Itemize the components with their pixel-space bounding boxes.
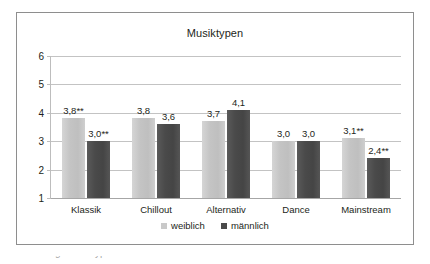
legend-item-label: weiblich	[171, 220, 205, 231]
x-axis-tick-label: Mainstream	[341, 204, 391, 215]
y-tick-mark-1	[47, 198, 51, 199]
bar-value-label: 3,6	[162, 111, 175, 122]
bar-value-label: 3,7	[207, 108, 220, 119]
x-axis-tick-label: Chillout	[140, 204, 172, 215]
bar-group: 3,83,6Chillout	[121, 56, 191, 198]
bar-weiblich-dance[interactable]: 3,0	[272, 141, 295, 198]
bar-group: 3,1**2,4**Mainstream	[331, 56, 401, 198]
cut-off-caption-text: Abbildung: Musiktypen nach Geschlecht	[16, 256, 356, 258]
bar-weiblich-chillout[interactable]: 3,8	[132, 118, 155, 198]
chart-screenshot: Musiktypen 1234563,8**3,0**Klassik3,83,6…	[0, 0, 430, 264]
y-axis-tick-label: 2	[38, 164, 44, 175]
cut-off-caption: Abbildung: Musiktypen nach Geschlecht	[16, 256, 356, 264]
bar-weiblich-klassik[interactable]: 3,8**	[62, 118, 85, 198]
plot-area: 1234563,8**3,0**Klassik3,83,6Chillout3,7…	[51, 56, 401, 198]
y-axis-tick-label: 1	[38, 193, 44, 204]
y-axis-tick-label: 4	[38, 107, 44, 118]
bar-value-label: 3,0**	[88, 128, 109, 139]
y-axis-tick-label: 5	[38, 79, 44, 90]
legend-item-label: männlich	[231, 220, 269, 231]
legend-swatch-icon	[221, 223, 227, 229]
bar-value-label: 3,8	[137, 105, 150, 116]
bar-value-label: 3,8**	[63, 105, 84, 116]
bar-group: 3,8**3,0**Klassik	[51, 56, 121, 198]
y-axis-tick-label: 3	[38, 136, 44, 147]
bar-männlich-mainstream[interactable]: 2,4**	[367, 158, 390, 198]
bar-männlich-chillout[interactable]: 3,6	[157, 124, 180, 198]
legend-swatch-icon	[161, 223, 167, 229]
bar-value-label: 3,0	[302, 128, 315, 139]
bar-value-label: 3,1**	[343, 125, 364, 136]
chart-title: Musiktypen	[17, 27, 413, 39]
legend-item-männlich[interactable]: männlich	[221, 220, 269, 231]
y-axis-tick-label: 6	[38, 51, 44, 62]
chart-frame: Musiktypen 1234563,8**3,0**Klassik3,83,6…	[16, 12, 414, 245]
bar-group: 3,03,0Dance	[261, 56, 331, 198]
bar-group: 3,74,1Alternativ	[191, 56, 261, 198]
bar-value-label: 2,4**	[368, 145, 389, 156]
x-axis-tick-label: Klassik	[71, 204, 101, 215]
legend-item-weiblich[interactable]: weiblich	[161, 220, 205, 231]
bar-weiblich-mainstream[interactable]: 3,1**	[342, 138, 365, 198]
gridline-1	[51, 198, 401, 199]
bar-weiblich-alternativ[interactable]: 3,7	[202, 121, 225, 198]
bar-männlich-dance[interactable]: 3,0	[297, 141, 320, 198]
x-axis-tick-label: Alternativ	[206, 204, 246, 215]
x-axis-tick-label: Dance	[282, 204, 309, 215]
chart-legend: weiblichmännlich	[17, 220, 413, 231]
bar-männlich-alternativ[interactable]: 4,1	[227, 110, 250, 198]
bar-value-label: 4,1	[232, 97, 245, 108]
bar-value-label: 3,0	[277, 128, 290, 139]
bar-männlich-klassik[interactable]: 3,0**	[87, 141, 110, 198]
